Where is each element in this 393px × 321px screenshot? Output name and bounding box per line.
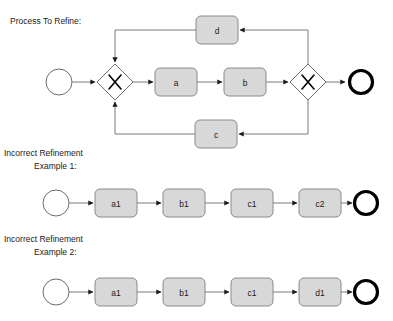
- task-a1[interactable]: a1: [95, 189, 137, 217]
- task-b1[interactable]: b1: [163, 278, 205, 306]
- task-d1-label: d1: [315, 288, 325, 298]
- section-incorrect-refinement-example-1: Incorrect Refinement Example 1: a1 b1 c1…: [4, 148, 378, 217]
- start-event[interactable]: [43, 279, 69, 305]
- task-a1[interactable]: a1: [95, 278, 137, 306]
- end-event[interactable]: [350, 71, 373, 94]
- end-event[interactable]: [355, 281, 378, 304]
- task-d-label: d: [215, 26, 220, 36]
- task-b1-label: b1: [179, 288, 189, 298]
- start-event[interactable]: [46, 69, 72, 95]
- task-a1-label: a1: [111, 288, 121, 298]
- section-caption-line-2: Example 2:: [34, 247, 77, 257]
- task-b1[interactable]: b1: [163, 189, 205, 217]
- end-event[interactable]: [355, 192, 378, 215]
- task-c1-label: c1: [248, 288, 257, 298]
- task-b-label: b: [243, 78, 248, 88]
- task-c2[interactable]: c2: [299, 189, 341, 217]
- section-caption-line-1: Incorrect Refinement: [4, 148, 84, 158]
- section-incorrect-refinement-example-2: Incorrect Refinement Example 2: a1 b1 c1…: [4, 234, 378, 306]
- flow-d-to-split: [115, 30, 196, 62]
- task-b[interactable]: b: [224, 68, 266, 96]
- split-gateway[interactable]: [97, 64, 133, 100]
- task-d1[interactable]: d1: [299, 278, 341, 306]
- flow-c-to-split: [115, 102, 195, 134]
- diagram-canvas: Process To Refine: a b: [0, 0, 393, 321]
- task-d[interactable]: d: [196, 16, 238, 44]
- task-c1-label: c1: [248, 199, 257, 209]
- section-caption-process-to-refine: Process To Refine:: [10, 16, 81, 26]
- section-caption-line-2: Example 1:: [34, 161, 77, 171]
- start-event[interactable]: [43, 190, 69, 216]
- section-process-to-refine: Process To Refine: a b: [10, 16, 373, 148]
- task-b1-label: b1: [179, 199, 189, 209]
- task-c2-label: c2: [316, 199, 325, 209]
- task-c1[interactable]: c1: [231, 189, 273, 217]
- task-c[interactable]: c: [195, 120, 237, 148]
- flow-join-to-c: [239, 100, 308, 134]
- task-a[interactable]: a: [155, 68, 197, 96]
- flow-join-to-d: [240, 30, 308, 64]
- section-caption-line-1: Incorrect Refinement: [4, 234, 84, 244]
- join-gateway[interactable]: [290, 64, 326, 100]
- task-c1[interactable]: c1: [231, 278, 273, 306]
- task-a-label: a: [174, 78, 179, 88]
- task-a1-label: a1: [111, 199, 121, 209]
